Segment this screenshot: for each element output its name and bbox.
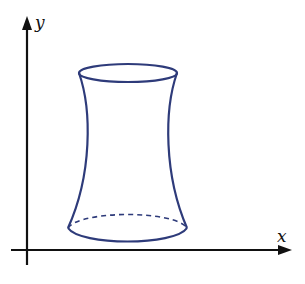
x-axis-arrow-icon	[278, 245, 292, 255]
bottom-ellipse-front	[68, 228, 187, 242]
y-axis-arrow-icon	[22, 16, 32, 30]
top-ellipse	[79, 64, 177, 82]
diagram-canvas: y x	[0, 0, 305, 284]
bottom-ellipse-back-dashed	[68, 215, 187, 229]
x-axis-label: x	[277, 226, 287, 246]
axes: y x	[11, 12, 292, 265]
y-axis-label: y	[34, 12, 45, 32]
left-profile-curve	[68, 73, 88, 228]
right-profile-curve	[168, 73, 187, 228]
hyperboloid-surface	[68, 64, 187, 242]
